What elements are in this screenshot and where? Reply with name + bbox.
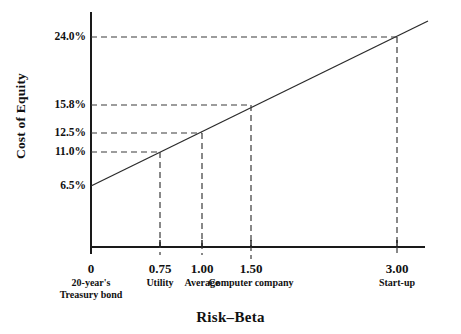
x-axis-desc-computer-company-line1: Computer company bbox=[191, 277, 311, 289]
y-axis-label-12-5: 12.5% bbox=[26, 126, 86, 138]
chart-container: Cost of Equity 24.0% 15.8% 12.5% 11.0% 6… bbox=[0, 0, 461, 334]
x-axis-value-1-50: 1.50 bbox=[221, 261, 281, 277]
x-axis-title: Risk–Beta bbox=[0, 309, 461, 326]
x-axis-desc-start-up-line1: Start-up bbox=[367, 277, 427, 289]
y-axis-title: Cost of Equity bbox=[13, 56, 29, 176]
y-axis-label-15-8: 15.8% bbox=[26, 98, 86, 110]
x-axis-desc-computer-company: Computer company bbox=[191, 277, 311, 289]
y-axis-label-6-5: 6.5% bbox=[26, 179, 86, 191]
x-axis-desc-start-up: Start-up bbox=[367, 277, 427, 289]
x-axis-value-0: 0 bbox=[61, 261, 121, 277]
x-axis-desc-treasury-bond: 20-year's Treasury bond bbox=[51, 277, 131, 300]
y-axis-label-24: 24.0% bbox=[26, 30, 86, 42]
security-market-line bbox=[91, 21, 428, 186]
x-axis-desc-treasury-bond-line2: Treasury bond bbox=[51, 289, 131, 301]
y-axis-label-11-0: 11.0% bbox=[26, 145, 86, 157]
x-axis-value-3-00: 3.00 bbox=[367, 261, 427, 277]
x-axis-desc-treasury-bond-line1: 20-year's bbox=[51, 277, 131, 289]
